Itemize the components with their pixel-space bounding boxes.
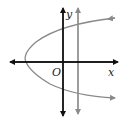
y-axis-label: y: [65, 8, 73, 21]
coordinate-graph: y x O: [0, 0, 125, 121]
parabola: [25, 18, 115, 98]
x-axis-label: x: [108, 66, 115, 79]
origin-label: O: [52, 66, 61, 79]
